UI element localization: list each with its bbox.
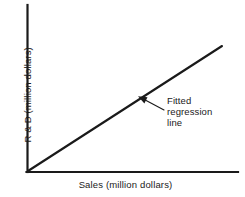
x-axis-label: Sales (million dollars) (0, 180, 245, 190)
annotation-line-3: line (167, 117, 212, 128)
annotation-line-1: Fitted (167, 95, 212, 106)
fitted-regression-line-annotation: Fitted regression line (167, 95, 212, 129)
regression-figure: R & D (million dollars) Sales (million d… (0, 0, 245, 197)
annotation-line-2: regression (167, 106, 212, 117)
y-axis-label: R & D (million dollars) (23, 20, 33, 170)
